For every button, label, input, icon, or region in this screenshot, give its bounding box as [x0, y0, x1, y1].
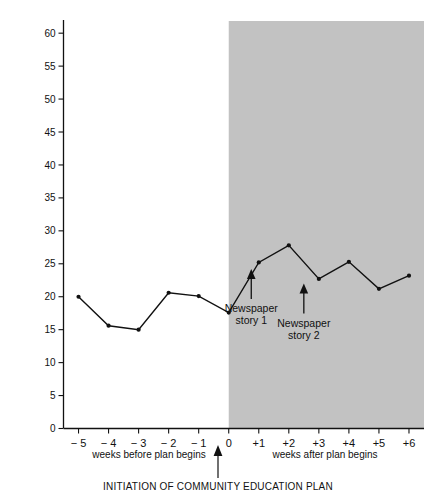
data-point: [167, 291, 171, 295]
chart-figure: REPORTS OF ABUSE OR NEGLECT IN THE COMMU…: [0, 0, 436, 498]
x-tick-label: − 2: [161, 437, 177, 449]
x-tick-label: +6: [403, 437, 416, 449]
data-point: [347, 260, 351, 264]
data-point: [407, 274, 411, 278]
newspaper-story-2-label-line1: Newspaper: [277, 317, 331, 329]
footer-caption: INITIATION OF COMMUNITY EDUCATION PLAN: [103, 481, 333, 492]
data-point: [76, 295, 80, 299]
y-tick-label: 5: [50, 390, 56, 401]
y-tick-label: 50: [44, 94, 56, 105]
x-tick-label: +1: [252, 437, 265, 449]
y-tick-label: 60: [44, 28, 56, 39]
data-point: [317, 277, 321, 281]
y-tick-label: 20: [44, 291, 56, 302]
x-tick-label: − 1: [191, 437, 207, 449]
newspaper-story-2-label-line2: story 2: [288, 329, 320, 341]
caption-weeks-before: weeks before plan begins: [91, 449, 205, 460]
data-point: [106, 324, 110, 328]
intervention-shaded-region: [229, 21, 424, 429]
newspaper-story-1-label-line2: story 1: [236, 314, 268, 326]
y-tick-label: 0: [50, 423, 56, 434]
x-tick-label: − 4: [101, 437, 117, 449]
y-tick-label: 35: [44, 192, 56, 203]
data-point: [137, 328, 141, 332]
newspaper-story-1-label-line1: Newspaper: [225, 302, 279, 314]
x-tick-label: +2: [283, 437, 296, 449]
data-point: [287, 243, 291, 247]
x-tick-label: +3: [313, 437, 326, 449]
x-tick-label: − 5: [71, 437, 87, 449]
chart-canvas: 051015202530354045505560 − 5− 4− 3− 2− 1…: [0, 0, 436, 498]
y-tick-label: 10: [44, 357, 56, 368]
y-tick-label: 55: [44, 61, 56, 72]
x-tick-label: +5: [373, 437, 386, 449]
y-tick-label: 25: [44, 258, 56, 269]
x-tick-label: 0: [226, 437, 232, 449]
data-point: [257, 260, 261, 264]
y-tick-label: 30: [44, 225, 56, 236]
y-tick-label: 15: [44, 324, 56, 335]
x-tick-label: − 3: [131, 437, 147, 449]
y-tick-label: 40: [44, 160, 56, 171]
data-point: [377, 287, 381, 291]
data-point: [197, 294, 201, 298]
x-tick-label: +4: [343, 437, 356, 449]
y-tick-label: 45: [44, 127, 56, 138]
caption-weeks-after: weeks after plan begins: [271, 449, 377, 460]
